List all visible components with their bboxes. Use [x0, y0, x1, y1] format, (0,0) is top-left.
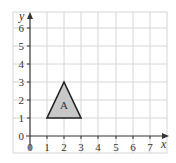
- svg-text:2: 2: [19, 94, 25, 106]
- svg-text:6: 6: [130, 141, 136, 153]
- grid-lines: [13, 12, 167, 153]
- svg-text:7: 7: [147, 141, 153, 153]
- svg-text:2: 2: [61, 141, 67, 153]
- svg-text:1: 1: [44, 141, 50, 153]
- svg-text:1: 1: [19, 112, 25, 124]
- svg-text:0: 0: [27, 141, 33, 153]
- triangle-a-label: A: [60, 99, 68, 111]
- svg-text:5: 5: [19, 40, 25, 52]
- x-tick-labels: 0 1 2 3 4 5 6 7: [27, 141, 153, 153]
- svg-text:5: 5: [113, 141, 119, 153]
- y-tick-labels: 6 5 4 3 2 1 0: [19, 22, 25, 142]
- svg-text:4: 4: [19, 58, 25, 70]
- x-axis-label: x: [160, 137, 167, 151]
- svg-text:4: 4: [95, 141, 101, 153]
- svg-text:3: 3: [19, 76, 25, 88]
- svg-text:3: 3: [78, 141, 84, 153]
- svg-text:6: 6: [19, 22, 25, 34]
- y-axis-arrow-icon: [27, 12, 33, 19]
- svg-text:0: 0: [19, 130, 25, 142]
- y-axis-label: y: [18, 9, 25, 23]
- coordinate-grid: y x 6 5 4 3 2 1 0 0 1 2 3 4 5 6 7 A: [0, 0, 176, 163]
